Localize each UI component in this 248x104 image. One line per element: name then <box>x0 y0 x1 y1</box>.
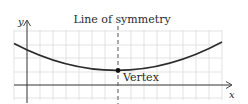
vertex-point <box>116 68 121 73</box>
parabola-diagram: Line of symmetry Vertex y x <box>0 0 248 104</box>
x-axis-label: x <box>229 89 235 100</box>
vertex-label: Vertex <box>122 71 160 84</box>
y-axis-label: y <box>17 16 24 27</box>
y-axis <box>24 20 31 103</box>
line-of-symmetry-label: Line of symmetry <box>73 13 171 26</box>
